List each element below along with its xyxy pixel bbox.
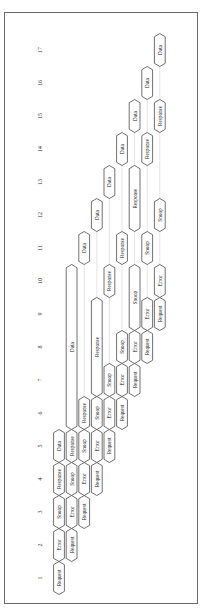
stage-label: Response <box>81 402 87 423</box>
stage-label: Request <box>119 404 125 421</box>
stage-label: Data <box>132 110 138 120</box>
stage-data: Data <box>66 265 77 430</box>
stage-snoop: Snoop <box>91 397 102 430</box>
stage-label: Request <box>106 437 112 454</box>
stage-label: Data <box>157 44 163 54</box>
stage-label: Snoop <box>81 439 87 453</box>
stage-label: Request <box>69 536 75 553</box>
stage-label: Data <box>144 77 150 87</box>
stage-label: Response <box>106 270 112 291</box>
stage-label: Error <box>69 506 75 517</box>
stage-data: Data <box>142 67 153 100</box>
stage-label: Data <box>94 209 100 219</box>
time-tick-label: 3 <box>37 511 43 514</box>
stage-label: Request <box>56 569 62 586</box>
stage-label: Data <box>106 176 112 186</box>
stage-label: Request <box>81 503 87 520</box>
time-axis: 1234567891011121314151617 <box>37 47 43 580</box>
stage-response: Response <box>129 166 140 232</box>
stage-data: Data <box>54 430 65 463</box>
time-tick-label: 4 <box>37 478 43 481</box>
stage-request: Request <box>66 529 77 562</box>
stage-response: Response <box>154 100 165 133</box>
stage-request: Request <box>129 364 140 397</box>
stage-error: Error <box>142 298 153 331</box>
stage-label: Error <box>56 539 62 550</box>
stage-response: Response <box>117 232 128 265</box>
time-tick-label: 10 <box>37 278 43 284</box>
stage-label: Request <box>132 371 138 388</box>
stage-data: Data <box>129 100 140 133</box>
stage-error: Error <box>117 364 128 397</box>
stage-label: Error <box>94 440 100 451</box>
stage-label: Error <box>119 374 125 385</box>
stage-snoop: Snoop <box>104 364 115 397</box>
time-tick-label: 14 <box>37 146 43 152</box>
stage-data: Data <box>117 133 128 166</box>
stage-label: Snoop <box>106 373 112 387</box>
stage-response: Response <box>66 430 77 463</box>
stage-label: Snoop <box>157 208 163 222</box>
stage-request: Request <box>142 331 153 364</box>
stage-label: Error <box>157 275 163 286</box>
time-tick-label: 2 <box>37 544 43 547</box>
stage-label: Response <box>56 468 62 489</box>
time-tick-label: 8 <box>37 346 43 349</box>
stage-label: Data <box>81 242 87 252</box>
time-tick-label: 1 <box>37 577 43 580</box>
stage-label: Response <box>69 435 75 456</box>
stage-request: Request <box>79 496 90 529</box>
stage-snoop: Snoop <box>117 331 128 364</box>
stage-label: Data <box>56 440 62 450</box>
stage-label: Error <box>106 407 112 418</box>
stage-label: Error <box>132 341 138 352</box>
stage-request: Request <box>104 430 115 463</box>
stage-label: Error <box>144 308 150 319</box>
stage-label: Request <box>144 338 150 355</box>
stage-label: Snoop <box>119 340 125 354</box>
stage-data: Data <box>154 34 165 67</box>
stage-label: Response <box>119 237 125 258</box>
stage-error: Error <box>66 496 77 529</box>
stage-error: Error <box>91 430 102 463</box>
time-tick-label: 13 <box>37 179 43 185</box>
time-tick-label: 12 <box>37 212 43 218</box>
stage-error: Error <box>129 331 140 364</box>
stage-label: Response <box>132 188 138 209</box>
stage-snoop: Snoop <box>79 430 90 463</box>
stage-error: Error <box>54 529 65 562</box>
stage-request: Request <box>54 562 65 595</box>
time-tick-label: 7 <box>37 379 43 382</box>
stage-snoop: Snoop <box>66 463 77 496</box>
stage-response: Response <box>79 397 90 430</box>
stage-response: Response <box>104 265 115 298</box>
transaction-stages: RequestErrorSnoopResponseDataRequestErro… <box>54 34 166 595</box>
stage-error: Error <box>104 397 115 430</box>
time-tick-label: 11 <box>37 245 43 251</box>
stage-label: Data <box>69 341 75 351</box>
stage-label: Request <box>157 305 163 322</box>
stage-label: Snoop <box>144 241 150 255</box>
stage-label: Error <box>81 473 87 484</box>
stage-label: Response <box>144 138 150 159</box>
stage-response: Response <box>142 133 153 166</box>
time-tick-label: 16 <box>37 80 43 86</box>
stage-data: Data <box>91 199 102 232</box>
stage-snoop: Snoop <box>129 265 140 331</box>
stage-label: Response <box>157 105 163 126</box>
stage-request: Request <box>91 463 102 496</box>
stage-data: Data <box>104 166 115 199</box>
stage-label: Data <box>119 143 125 153</box>
stage-request: Request <box>154 298 165 331</box>
time-tick-label: 6 <box>37 412 43 415</box>
stage-label: Request <box>94 470 100 487</box>
stage-label: Response <box>94 336 100 357</box>
time-tick-label: 9 <box>37 313 43 316</box>
stage-snoop: Snoop <box>54 496 65 529</box>
stage-error: Error <box>79 463 90 496</box>
stage-snoop: Snoop <box>142 232 153 265</box>
stage-data: Data <box>79 232 90 265</box>
stage-label: Snoop <box>56 505 62 519</box>
time-tick-label: 5 <box>37 445 43 448</box>
stage-request: Request <box>117 397 128 430</box>
